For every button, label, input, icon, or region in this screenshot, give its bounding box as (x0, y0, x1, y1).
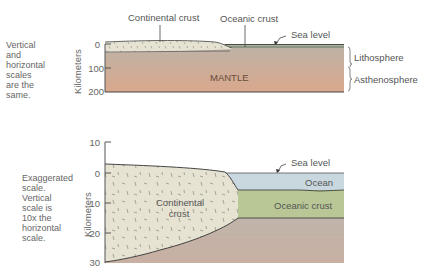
label-asthenosphere: Asthenosphere (354, 74, 418, 85)
bottom-scale-note: Exaggerated scale. Vertical scale is 10x… (22, 173, 73, 243)
label-oceanic-crust: Oceanic crust (220, 13, 278, 24)
bottom-tick-0: 0 (76, 168, 100, 179)
bottom-tick-10: 10 (76, 198, 100, 209)
note-line: scale. (22, 233, 73, 243)
label-oceanic-crust-bottom: Oceanic crust (274, 200, 332, 211)
label-lithosphere: Lithosphere (354, 52, 404, 63)
note-line: Exaggerated (22, 173, 73, 183)
note-line: 10x the (22, 213, 73, 223)
note-line: scale is (22, 203, 73, 213)
bottom-tick-30: 30 (76, 257, 100, 268)
label-ocean: Ocean (305, 177, 333, 188)
label-continental-crust: Continental crust (128, 12, 199, 23)
label-line: Continental (156, 197, 202, 208)
label-mantle: MANTLE (210, 72, 249, 83)
bottom-tick-plus10: 10 (76, 137, 100, 148)
bottom-tick-20: 20 (76, 228, 100, 239)
note-line: scale. (22, 183, 73, 193)
note-line: horizontal (22, 223, 73, 233)
label-sea-level: Sea level (291, 29, 330, 40)
label-line: crust (156, 208, 202, 219)
label-continental-crust-bottom: Continental crust (156, 197, 202, 219)
label-sea-level-bottom: Sea level (291, 157, 330, 168)
note-line: Vertical (22, 193, 73, 203)
